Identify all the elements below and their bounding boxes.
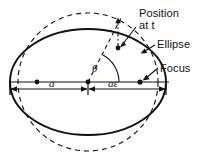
leader-line-focus — [146, 68, 158, 78]
leader-arrow-ellipse — [141, 49, 148, 54]
focal-offset-label: aε — [108, 78, 118, 89]
center-point — [35, 80, 40, 85]
leader-line-position — [122, 27, 136, 45]
arrow-a-right — [81, 86, 88, 92]
leader-arrow-position — [120, 41, 126, 47]
ellipse-label: Ellipse — [157, 39, 190, 51]
semi-major-axis-label: a — [49, 78, 55, 89]
focus-label: Focus — [160, 63, 190, 75]
arrow-ae-left — [89, 86, 96, 92]
position-at-t-label: Position at t — [139, 8, 179, 31]
position-point — [116, 46, 121, 51]
diagram-canvas: Position at t Ellipse Focus θ a aε — [0, 0, 205, 164]
focus-point — [137, 79, 142, 84]
theta-angle-label: θ — [92, 63, 97, 74]
